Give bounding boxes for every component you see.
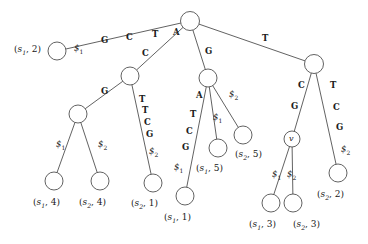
leaf-s1-4 bbox=[45, 172, 63, 190]
leaf-s2-1 bbox=[144, 174, 162, 192]
leaf-label-s1-3: (s1, 3) bbox=[249, 220, 276, 231]
leaf-label-s2-5: (s2, 5) bbox=[235, 150, 262, 161]
edge-label-t-root-s12: T bbox=[152, 30, 158, 39]
edge-label-dollar1-gg-s14: $1 bbox=[56, 140, 65, 151]
edge-label-t-root-t: T bbox=[262, 34, 268, 43]
edge-label-dollar2-t-s22: $2 bbox=[341, 145, 350, 156]
edge-label-a-g-s11: A bbox=[196, 91, 203, 100]
leaf-label-s2-1: (s2, 1) bbox=[131, 199, 158, 210]
edge-label-t2-c-s21: T bbox=[142, 106, 148, 115]
edge-label-g-g-s11: G bbox=[182, 143, 189, 152]
edge-label-dollar1-v-s13: $1 bbox=[272, 170, 281, 181]
edge-label-g-t-s22: G bbox=[336, 123, 343, 132]
internal-node-g bbox=[199, 69, 217, 87]
edge-label-c-t-s22: C bbox=[333, 103, 340, 112]
edge-label-g-root-g: G bbox=[205, 47, 212, 56]
root-node bbox=[181, 12, 200, 31]
suffix-tree-figure: $1GCTACGTGTTCG$2$1$2ATCG$1$1$2CGTCG$2$1$… bbox=[0, 0, 368, 244]
leaf-s2-3 bbox=[284, 194, 302, 212]
edge-label-g-root-s12: G bbox=[101, 36, 108, 45]
edge-label-g-t-v: G bbox=[291, 102, 298, 111]
edge-label-dollar2-g-s25: $2 bbox=[229, 90, 238, 101]
edge-label-t1-c-s21: T bbox=[139, 95, 145, 104]
edge-root-to-g bbox=[193, 30, 205, 69]
leaf-label-s1-1: (s1, 1) bbox=[164, 213, 191, 224]
internal-node-gg bbox=[69, 105, 87, 123]
edge-gg-to-s2-4 bbox=[81, 123, 97, 173]
edge-label-c-c-s21: C bbox=[144, 118, 151, 127]
leaf-s1-1 bbox=[176, 187, 194, 205]
leaf-label-s1-5: (s1, 5) bbox=[196, 164, 223, 175]
edge-label-t-t-s22: T bbox=[330, 81, 336, 90]
leaf-s2-5 bbox=[234, 126, 252, 144]
leaf-s1-3 bbox=[262, 194, 280, 212]
edge-label-c-root-c: C bbox=[142, 49, 149, 58]
internal-node-t bbox=[305, 55, 324, 74]
leaf-s2-4 bbox=[91, 172, 109, 190]
edge-label-dollar2-c-s21: $2 bbox=[149, 147, 158, 158]
leaf-s1-5 bbox=[209, 139, 227, 157]
edge-label-c-root-s12: C bbox=[126, 33, 133, 42]
internal-node-c bbox=[121, 67, 139, 85]
edge-label-dollar1-root-s12: $1 bbox=[74, 44, 83, 55]
edge-label-dollar2-v-s23: $2 bbox=[287, 170, 296, 181]
leaf-label-s1-2: (s1, 2) bbox=[14, 45, 41, 56]
leaf-label-s1-4: (s1, 4) bbox=[33, 198, 60, 209]
edge-label-c-t-v: C bbox=[298, 81, 305, 90]
edge-label-a-root-s12: A bbox=[173, 28, 180, 37]
edge-label-g-c-s21: G bbox=[146, 130, 153, 139]
edge-root-to-t bbox=[199, 24, 305, 61]
edge-label-dollar1-g-s15: $1 bbox=[213, 113, 222, 124]
edge-label-c-g-s11: C bbox=[186, 127, 193, 136]
edge-label-dollar2-gg-s24: $2 bbox=[98, 140, 107, 151]
edge-label-g-c-gg: G bbox=[101, 87, 108, 96]
leaf-s1-2 bbox=[48, 42, 66, 60]
leaf-label-s2-4: (s2, 4) bbox=[79, 198, 106, 209]
leaf-label-s2-2: (s2, 2) bbox=[317, 190, 344, 201]
leaf-label-s2-3: (s2, 3) bbox=[293, 220, 320, 231]
edge-label-dollar1-g-s11: $1 bbox=[174, 163, 183, 174]
edge-label-t-g-s11: T bbox=[190, 110, 196, 119]
leaf-s2-2 bbox=[329, 164, 347, 182]
node-name-v: v bbox=[289, 135, 294, 143]
